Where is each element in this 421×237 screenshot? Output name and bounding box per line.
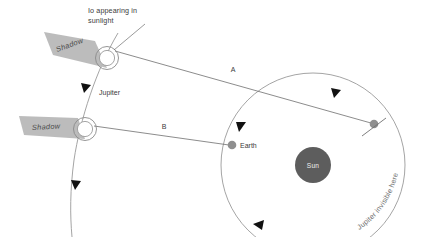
jupiter-disc-upper (99, 50, 114, 65)
scene-svg: Shadow Shadow Sun A B Earth J (0, 0, 421, 237)
io-appearing-note: Io appearing in sunlight (88, 6, 172, 25)
earth-label: Earth (240, 142, 257, 149)
jupiter-orbit-arrow-upper (81, 83, 91, 93)
sun-label: Sun (307, 162, 319, 169)
segment-a-label: A (231, 66, 236, 73)
jupiter-invisible-label: Jupiter invisible here (355, 172, 400, 232)
orbit-arrow-left (236, 122, 246, 132)
sight-line-a (115, 51, 378, 125)
orbit-arrow-bottom (253, 220, 264, 230)
jupiter-disc-lower (77, 121, 92, 136)
orbit-arrow-top (331, 88, 341, 98)
jupiter-label: Jupiter (99, 89, 121, 97)
diagram-canvas: Shadow Shadow Sun A B Earth J (0, 0, 421, 237)
jupiter-invisible-textpath: Jupiter invisible here (355, 172, 400, 232)
earth-disc (228, 141, 237, 150)
jupiter-orbit-arrow-lower (71, 180, 81, 190)
shadow-label-lower: Shadow (32, 121, 61, 131)
segment-b-label: B (162, 123, 167, 130)
io-note-leader (114, 24, 145, 50)
